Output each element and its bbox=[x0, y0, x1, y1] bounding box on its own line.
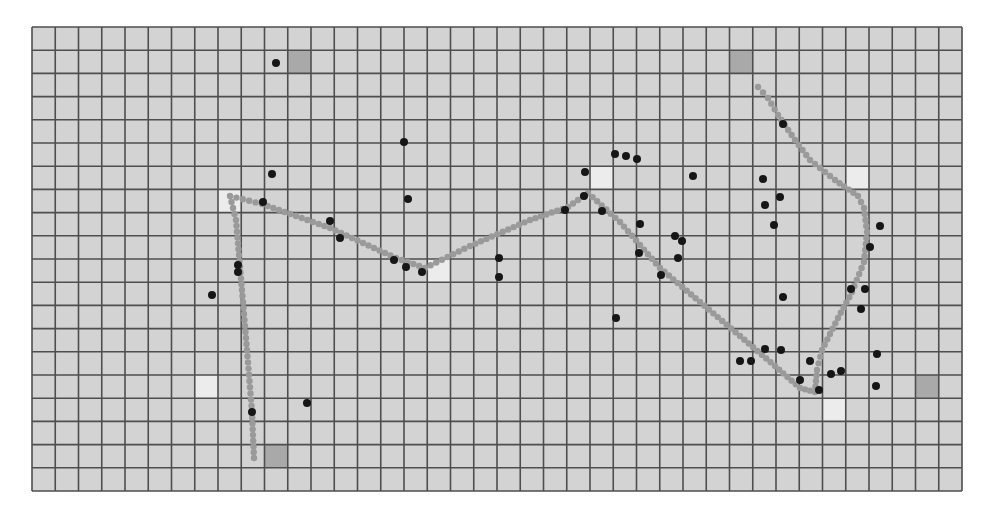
path-point bbox=[494, 231, 500, 237]
path-point bbox=[521, 219, 527, 225]
path-point bbox=[227, 193, 233, 199]
path-point bbox=[239, 293, 245, 299]
light-cell bbox=[846, 166, 869, 189]
path-point bbox=[549, 209, 555, 215]
path-point bbox=[249, 420, 255, 426]
path-point bbox=[248, 396, 254, 402]
path-point bbox=[813, 378, 819, 384]
observation-dot bbox=[268, 170, 276, 178]
observation-dot bbox=[402, 263, 410, 271]
path-point bbox=[483, 236, 489, 242]
path-point bbox=[238, 281, 244, 287]
path-point bbox=[244, 353, 250, 359]
path-point bbox=[236, 252, 242, 258]
path-point bbox=[233, 217, 239, 223]
path-point bbox=[230, 205, 236, 211]
path-point bbox=[239, 287, 245, 293]
path-point bbox=[456, 248, 462, 254]
path-point bbox=[241, 311, 247, 317]
path-point bbox=[321, 223, 327, 229]
path-point bbox=[231, 211, 237, 217]
path-point bbox=[304, 217, 310, 223]
path-point bbox=[244, 347, 250, 353]
path-point bbox=[862, 217, 868, 223]
grid-world-canvas bbox=[0, 0, 992, 517]
light-cell bbox=[195, 375, 218, 398]
observation-dot bbox=[689, 172, 697, 180]
path-point bbox=[240, 305, 246, 311]
path-point bbox=[433, 259, 439, 265]
path-point bbox=[510, 224, 516, 230]
path-point bbox=[228, 199, 234, 205]
path-point bbox=[270, 205, 276, 211]
path-point bbox=[247, 390, 253, 396]
observation-dot bbox=[657, 271, 665, 279]
observation-dot bbox=[736, 357, 744, 365]
path-point bbox=[252, 199, 258, 205]
path-point bbox=[489, 233, 495, 239]
path-point bbox=[246, 372, 252, 378]
dark-cell bbox=[265, 445, 288, 468]
observation-dot bbox=[857, 305, 865, 313]
dark-cell bbox=[730, 50, 753, 73]
observation-dot bbox=[873, 350, 881, 358]
path-point bbox=[281, 209, 287, 215]
path-point bbox=[360, 240, 366, 246]
path-point bbox=[812, 161, 818, 167]
path-point bbox=[243, 335, 249, 341]
observation-dot bbox=[633, 155, 641, 163]
observation-dot bbox=[635, 249, 643, 257]
observation-dot bbox=[776, 193, 784, 201]
path-point bbox=[755, 84, 761, 90]
path-point bbox=[365, 242, 371, 248]
path-point bbox=[817, 165, 823, 171]
observation-dot bbox=[495, 273, 503, 281]
path-point bbox=[500, 229, 506, 235]
path-point bbox=[298, 215, 304, 221]
path-point bbox=[505, 226, 511, 232]
observation-dot bbox=[400, 138, 408, 146]
path-point bbox=[768, 100, 774, 106]
observation-dot bbox=[779, 120, 787, 128]
observation-dot bbox=[248, 408, 256, 416]
path-point bbox=[461, 246, 467, 252]
path-point bbox=[765, 95, 771, 101]
path-point bbox=[854, 277, 860, 283]
path-point bbox=[814, 367, 820, 373]
observation-dot bbox=[234, 261, 242, 269]
path-point bbox=[554, 208, 560, 214]
path-point bbox=[861, 205, 867, 211]
path-point bbox=[822, 169, 828, 175]
path-point bbox=[240, 196, 246, 202]
path-point bbox=[817, 353, 823, 359]
observation-dot bbox=[806, 357, 814, 365]
observation-dot bbox=[598, 207, 606, 215]
observation-dot bbox=[495, 254, 503, 262]
path-point bbox=[775, 112, 781, 118]
path-point bbox=[861, 259, 867, 265]
path-point bbox=[467, 243, 473, 249]
path-point bbox=[332, 227, 338, 233]
observation-dot bbox=[561, 206, 569, 214]
path-point bbox=[245, 365, 251, 371]
observation-dot bbox=[234, 268, 242, 276]
light-cell bbox=[823, 398, 846, 421]
path-point bbox=[240, 299, 246, 305]
path-point bbox=[856, 271, 862, 277]
path-point bbox=[450, 251, 456, 257]
path-point bbox=[827, 173, 833, 179]
path-point bbox=[864, 229, 870, 235]
observation-dot bbox=[861, 285, 869, 293]
path-point bbox=[863, 235, 869, 241]
path-point bbox=[354, 237, 360, 243]
path-point bbox=[234, 234, 240, 240]
path-point bbox=[246, 198, 252, 204]
observation-dot bbox=[847, 285, 855, 293]
path-point bbox=[862, 211, 868, 217]
observation-dot bbox=[777, 346, 785, 354]
path-point bbox=[327, 225, 333, 231]
observation-dot bbox=[612, 314, 620, 322]
observation-dot bbox=[872, 382, 880, 390]
path-point bbox=[815, 360, 821, 366]
observation-dot bbox=[636, 220, 644, 228]
